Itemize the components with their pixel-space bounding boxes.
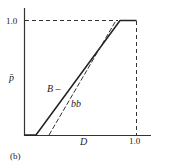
y-axis-label: p̄ — [8, 72, 14, 83]
x-axis-label: D — [79, 136, 88, 147]
panel-label: (b) — [10, 151, 21, 161]
series-bb-line — [49, 21, 116, 136]
y-tick-label: 1.0 — [6, 16, 18, 26]
series-bb-label: bb — [71, 98, 81, 109]
chart: 1.0 1.0 D p̄ B – bb (b) — [0, 0, 169, 168]
x-tick-label: 1.0 — [129, 136, 141, 146]
series-b-line — [25, 21, 137, 136]
series-b-label: B – — [47, 83, 62, 94]
